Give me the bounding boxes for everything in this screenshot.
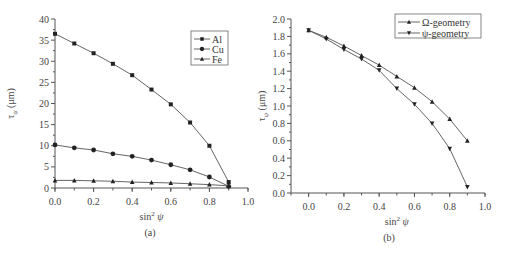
y-tick-label: 30 xyxy=(39,56,49,67)
x-tick-label: 0.2 xyxy=(87,196,100,207)
y-tick-label: 0.8 xyxy=(273,118,286,129)
y-axis-label: τψ (μm) xyxy=(5,88,19,119)
series-line xyxy=(55,180,229,185)
legend-entry: ψ-geometry xyxy=(422,28,469,39)
legend: AlCuFe xyxy=(191,31,228,65)
x-axis-label: sin2 ψ xyxy=(140,210,165,222)
data-point-marker xyxy=(447,147,452,152)
data-point-marker xyxy=(72,145,77,150)
data-point-marker xyxy=(207,144,211,148)
data-point-marker xyxy=(111,151,116,156)
data-point-marker xyxy=(412,85,417,90)
data-point-marker xyxy=(207,175,212,180)
x-tick-label: 0.4 xyxy=(126,196,139,207)
data-point-marker xyxy=(168,162,173,167)
data-point-marker xyxy=(111,62,115,66)
x-tick-label: 0.4 xyxy=(373,201,386,212)
x-tick-label: 0.8 xyxy=(443,201,456,212)
y-tick-label: 5 xyxy=(44,161,49,172)
data-point-marker xyxy=(130,154,135,159)
y-axis-label: τψ (μm) xyxy=(256,91,270,122)
series-cu xyxy=(53,143,232,189)
y-tick-label: 1.0 xyxy=(273,101,286,112)
x-tick-label: 1.0 xyxy=(242,196,255,207)
data-point-marker xyxy=(53,32,57,36)
y-tick-label: 0.4 xyxy=(273,153,286,164)
series-geometry xyxy=(306,28,469,189)
x-tick-label: 0.8 xyxy=(203,196,216,207)
data-point-marker xyxy=(342,43,347,48)
legend-entry: Fe xyxy=(212,54,223,65)
data-point-marker xyxy=(377,63,382,68)
data-point-marker xyxy=(149,158,154,163)
series-fe xyxy=(53,178,231,188)
y-tick-label: 0 xyxy=(44,183,49,194)
y-tick-label: 1.6 xyxy=(273,48,286,59)
y-tick-label: 25 xyxy=(39,77,49,88)
y-tick-label: 15 xyxy=(39,119,49,130)
chart-panel-a: 05101520253035400.00.20.40.60.81.0sin2 ψ… xyxy=(5,14,254,240)
data-point-marker xyxy=(130,73,134,77)
data-point-marker xyxy=(150,88,154,92)
x-tick-label: 0.6 xyxy=(165,196,178,207)
data-point-marker xyxy=(342,47,347,52)
data-point-marker xyxy=(91,148,96,153)
data-point-marker xyxy=(359,53,364,58)
y-tick-label: 40 xyxy=(39,14,49,25)
x-tick-label: 0.0 xyxy=(302,201,315,212)
data-point-marker xyxy=(72,42,76,46)
y-tick-label: 1.4 xyxy=(273,66,286,77)
data-point-marker xyxy=(359,57,364,62)
data-point-marker xyxy=(188,121,192,125)
data-point-marker xyxy=(169,102,173,106)
panel-caption: (b) xyxy=(383,232,395,244)
y-tick-label: 2.0 xyxy=(273,14,286,25)
data-point-marker xyxy=(188,167,193,172)
y-tick-label: 1.8 xyxy=(273,31,286,42)
x-tick-label: 1.0 xyxy=(479,201,492,212)
y-tick-label: 0.2 xyxy=(273,170,286,181)
legend: Ω-geometryψ-geometry xyxy=(395,14,481,39)
data-point-marker xyxy=(465,185,470,190)
legend-entry: Ω-geometry xyxy=(422,17,471,28)
panel-caption: (a) xyxy=(144,227,155,239)
data-point-marker xyxy=(92,51,96,55)
figure: 05101520253035400.00.20.40.60.81.0sin2 ψ… xyxy=(0,0,506,255)
x-tick-label: 0.6 xyxy=(408,201,421,212)
y-tick-label: 0.6 xyxy=(273,135,286,146)
x-tick-label: 0.2 xyxy=(338,201,351,212)
data-point-marker xyxy=(53,143,58,148)
y-tick-label: 1.2 xyxy=(273,83,286,94)
y-tick-label: 0.0 xyxy=(273,188,286,199)
data-point-marker xyxy=(395,74,400,79)
series-geometry xyxy=(306,28,469,143)
x-axis-label: sin2 ψ xyxy=(385,215,410,227)
y-tick-label: 10 xyxy=(39,140,49,151)
y-tick-label: 20 xyxy=(39,98,49,109)
legend-marker xyxy=(200,37,204,41)
y-tick-label: 35 xyxy=(39,35,49,46)
legend-marker xyxy=(200,47,204,51)
series-line xyxy=(309,30,468,187)
x-tick-label: 0.0 xyxy=(49,196,62,207)
chart-panel-b: 0.00.20.40.60.81.01.21.41.61.82.00.00.20… xyxy=(256,14,491,245)
series-line xyxy=(309,30,468,140)
